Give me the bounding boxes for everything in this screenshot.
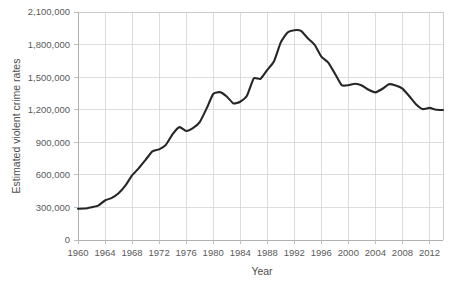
y-tick-label: 1,800,000 <box>28 39 70 50</box>
x-tick-label: 1972 <box>149 247 170 258</box>
x-axis-ticks: 1960196419681972197619801984198819921996… <box>67 240 440 258</box>
y-tick-label: 2,100,000 <box>28 6 70 17</box>
y-tick-label: 1,200,000 <box>28 104 70 115</box>
x-tick-label: 2004 <box>365 247 386 258</box>
x-tick-label: 1992 <box>284 247 305 258</box>
y-tick-label: 900,000 <box>36 137 70 148</box>
x-tick-label: 2012 <box>419 247 440 258</box>
x-tick-label: 1960 <box>67 247 88 258</box>
y-axis-title: Estimated violent crime rates <box>10 59 22 194</box>
x-tick-label: 1964 <box>94 247 115 258</box>
y-tick-label: 600,000 <box>36 169 70 180</box>
x-axis-title: Year <box>251 265 273 277</box>
y-axis-ticks: 0300,000600,000900,0001,200,0001,500,000… <box>28 6 78 245</box>
violent-crime-line-chart: 0300,000600,000900,0001,200,0001,500,000… <box>0 0 459 285</box>
x-tick-label: 1996 <box>311 247 332 258</box>
x-tick-label: 1984 <box>230 247 251 258</box>
y-tick-label: 1,500,000 <box>28 72 70 83</box>
x-tick-label: 2008 <box>392 247 413 258</box>
chart-canvas: 0300,000600,000900,0001,200,0001,500,000… <box>0 0 459 285</box>
y-tick-label: 300,000 <box>36 202 70 213</box>
x-tick-label: 1976 <box>176 247 197 258</box>
x-tick-label: 1968 <box>122 247 143 258</box>
plot-area-background <box>78 12 443 240</box>
x-tick-label: 1980 <box>203 247 224 258</box>
x-tick-label: 1988 <box>257 247 278 258</box>
x-tick-label: 2000 <box>338 247 359 258</box>
y-tick-label: 0 <box>65 234 70 245</box>
